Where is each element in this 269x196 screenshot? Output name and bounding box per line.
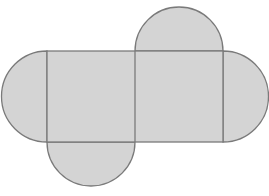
top-flap xyxy=(135,7,223,51)
bottom-flap xyxy=(47,142,135,186)
right-flap xyxy=(223,51,269,142)
net-shapes xyxy=(2,7,269,186)
net-diagram xyxy=(0,0,269,196)
left-flap xyxy=(2,51,47,142)
